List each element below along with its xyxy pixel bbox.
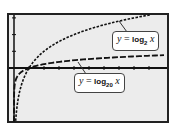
chart-plot: [0, 0, 174, 130]
label-log20: y = log20 x: [74, 73, 125, 93]
label-log2: y = log2 x: [112, 31, 159, 51]
